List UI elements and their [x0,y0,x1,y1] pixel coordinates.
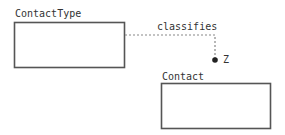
relationship-label: classifies [157,21,217,32]
cardinality-label: Z [223,54,229,65]
entity-box-contact-type[interactable] [15,23,125,68]
relationship-connector-line[interactable] [125,35,215,58]
entity-box-contact[interactable] [162,84,271,129]
entity-contact[interactable]: Contact [162,71,271,129]
diagram-canvas: ContactType classifies Z Contact [0,0,285,135]
entity-contact-type[interactable]: ContactType [15,8,125,68]
relationship-classifies[interactable]: classifies Z [125,21,229,65]
entity-label-contact-type: ContactType [15,8,81,19]
filled-dot-icon [212,57,218,63]
entity-label-contact: Contact [162,71,204,82]
